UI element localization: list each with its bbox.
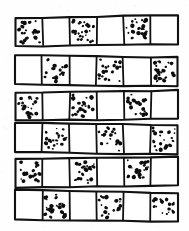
cell-stippled	[124, 91, 151, 120]
paper-speckle	[180, 165, 181, 166]
figure-canvas	[0, 0, 189, 231]
cell-stippled	[70, 158, 97, 187]
cell-background	[15, 123, 42, 153]
stipple-dot	[52, 139, 55, 141]
paper-speckle	[121, 13, 122, 14]
cell-background	[43, 158, 70, 187]
paper-speckle	[119, 89, 120, 90]
cell-stippled	[151, 192, 178, 221]
cell-divider	[150, 125, 151, 153]
cell-blank	[43, 158, 70, 187]
cell-background	[124, 192, 151, 221]
cell-divider	[123, 57, 124, 85]
cell-stippled	[42, 190, 69, 220]
cell-blank	[15, 55, 42, 84]
cell-stippled	[97, 191, 124, 221]
strip-diagram	[0, 0, 189, 231]
paper-speckle	[6, 118, 7, 119]
cell-background	[97, 91, 124, 120]
cell-blank	[69, 124, 96, 154]
cell-divider	[42, 18, 43, 45]
cell-blank	[124, 192, 151, 221]
stipple-dot	[118, 80, 120, 82]
cell-stippled	[124, 16, 151, 46]
paper-speckle	[44, 226, 45, 227]
cell-blank	[69, 56, 96, 85]
paper-speckle	[12, 212, 13, 213]
cell-stippled	[124, 157, 151, 186]
paper-speckle	[74, 224, 75, 225]
cell-divider	[69, 93, 70, 120]
cell-background	[151, 157, 178, 186]
paper-speckle	[135, 5, 136, 6]
cell-blank	[97, 16, 124, 45]
cell-background	[151, 15, 178, 45]
stipple-dot	[168, 204, 170, 206]
paper-speckle	[181, 175, 182, 176]
paper-speckle	[63, 121, 64, 122]
cell-divider	[42, 124, 43, 152]
cell-blank	[15, 190, 42, 221]
cell-blank	[15, 123, 42, 153]
paper-speckle	[67, 10, 68, 11]
paper-speckle	[162, 191, 163, 192]
paper-speckle	[181, 60, 182, 61]
paper-speckle	[151, 188, 152, 189]
paper-speckle	[120, 89, 121, 90]
paper-speckle	[7, 61, 8, 62]
cell-stippled	[96, 56, 123, 85]
strip-row-4	[15, 123, 178, 154]
paper-speckle	[121, 225, 122, 226]
cell-blank	[151, 90, 178, 119]
strip-row-5	[16, 157, 179, 188]
cell-blank	[43, 17, 70, 46]
cell-divider	[96, 57, 97, 85]
paper-speckle	[3, 126, 4, 127]
cell-blank	[43, 92, 70, 121]
cell-divider	[69, 124, 70, 152]
paper-speckle	[174, 50, 175, 51]
cell-blank	[151, 157, 178, 186]
paper-speckle	[154, 6, 155, 7]
cell-stippled	[16, 18, 43, 47]
cell-blank	[69, 191, 96, 221]
paper-speckle	[188, 149, 189, 150]
cell-divider	[123, 17, 124, 45]
cell-divider	[151, 91, 152, 118]
paper-speckle	[8, 143, 9, 144]
strip-row-1	[16, 15, 179, 46]
paper-speckle	[59, 6, 60, 7]
cell-background	[43, 17, 70, 46]
strip-row-2	[15, 55, 178, 86]
paper-speckle	[56, 226, 57, 227]
cell-background	[151, 90, 178, 119]
cell-blank	[123, 57, 150, 86]
paper-speckle	[6, 128, 7, 129]
cell-background	[69, 191, 96, 221]
cell-divider	[69, 159, 70, 187]
cell-divider	[123, 193, 124, 221]
paper-speckle	[91, 224, 92, 225]
paper-speckle	[9, 99, 10, 100]
paper-speckle	[69, 53, 70, 54]
cell-stippled	[42, 56, 69, 85]
cell-stippled	[16, 159, 43, 188]
paper-speckle	[52, 13, 53, 14]
stipple-dot	[101, 64, 104, 67]
cell-background	[123, 57, 150, 86]
paper-speckle	[10, 117, 11, 118]
strips-layer	[15, 15, 178, 222]
cell-stippled	[150, 57, 177, 86]
cell-background	[69, 56, 96, 85]
paper-speckle	[115, 1, 116, 2]
cell-divider	[150, 158, 151, 186]
paper-speckle	[35, 229, 36, 230]
cell-background	[123, 124, 150, 154]
cell-divider	[96, 125, 97, 153]
stipple-dot	[87, 182, 89, 184]
cell-stippled	[70, 17, 97, 46]
cell-stippled	[16, 92, 43, 121]
paper-speckle	[46, 10, 47, 11]
paper-speckle	[93, 13, 94, 14]
strip-row-3	[16, 90, 179, 121]
